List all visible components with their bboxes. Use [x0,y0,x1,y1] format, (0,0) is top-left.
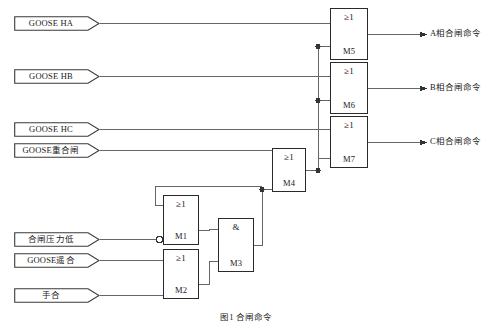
input-goose-ha[interactable]: GOOSE HA [14,16,100,31]
output-phase-c: C相合闸命令 [430,136,481,147]
gate-label: M7 [331,154,367,164]
gate-symbol: ≥1 [331,12,367,22]
gate-label: M1 [164,231,198,241]
junction-dot-m4-bus [315,168,320,173]
gate-label: M2 [164,285,198,295]
gate-symbol: ≥1 [273,152,305,162]
output-phase-a: A相合闸命令 [430,28,481,39]
gate-m6[interactable]: ≥1 M6 [330,62,368,114]
input-close-pressure-low[interactable]: 合闸压力低 [14,232,100,247]
wire-m1-to-m3 [199,230,218,231]
input-goose-reclose[interactable]: GOOSE重合闸 [14,143,100,158]
junction-dot-m6 [315,98,320,103]
input-label: GOOSE HB [14,69,100,84]
output-phase-b: B相合闸命令 [430,82,481,93]
junction-dot-m4-in [259,187,264,192]
gate-symbol: ≥1 [331,66,367,76]
arrow-head-icon-c [420,140,427,146]
wire-layer [0,0,492,323]
input-label: 合闸压力低 [14,232,100,247]
gate-label: M4 [273,178,305,188]
figure-caption: 图1 合闸命令 [0,310,492,322]
input-label: GOOSE HA [14,16,100,31]
input-label: GOOSE遥合 [14,253,100,268]
input-label: GOOSE重合闸 [14,143,100,158]
inverter-bubble-icon [156,236,162,242]
wire-m3-out [254,190,262,246]
arrow-head-icon-b [420,86,427,92]
gate-label: M6 [331,100,367,110]
arrow-head-icon-a [420,32,427,38]
junction-dot-m5 [315,44,320,49]
input-goose-hc[interactable]: GOOSE HC [14,122,100,137]
logic-diagram: GOOSE HA GOOSE HB GOOSE HC GOOSE重合闸 合闸压力… [0,0,492,323]
gate-m3[interactable]: & M3 [218,218,254,272]
input-manual-close[interactable]: 手合 [14,288,100,303]
input-label: 手合 [14,288,100,303]
gate-symbol: ≥1 [164,199,198,209]
gate-m2[interactable]: ≥1 M2 [163,249,199,299]
gate-m1[interactable]: ≥1 M1 [163,195,199,245]
gate-symbol: ≥1 [164,253,198,263]
gate-m7[interactable]: ≥1 M7 [330,116,368,168]
input-label: GOOSE HC [14,122,100,137]
gate-label: M3 [219,258,253,268]
gate-m4[interactable]: ≥1 M4 [272,148,306,192]
gate-symbol: & [219,222,253,232]
input-goose-hb[interactable]: GOOSE HB [14,69,100,84]
gate-symbol: ≥1 [331,120,367,130]
wire-m2-to-m3 [199,262,218,285]
gate-m5[interactable]: ≥1 M5 [330,8,368,60]
gate-label: M5 [331,46,367,56]
input-goose-remote-close[interactable]: GOOSE遥合 [14,253,100,268]
